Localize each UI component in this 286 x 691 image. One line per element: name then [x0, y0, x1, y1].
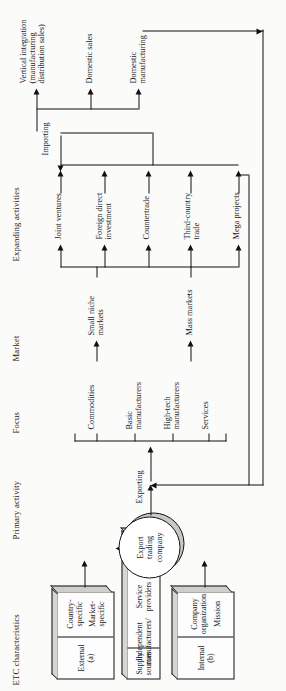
focus-bracket-cap-bottom: [225, 433, 226, 441]
connector-expanding-row: [148, 249, 149, 267]
focus-bracket-cap-top: [74, 433, 75, 441]
arrowhead-expanding-row: [235, 244, 241, 250]
connector-exporting-to-focus: [150, 451, 151, 481]
expanding-item-mega-projects: Mega projects: [231, 192, 240, 239]
expanding-item-foreign-direct-investment: Foreign direct investment: [94, 192, 112, 239]
feedback-loop-long-drop: [155, 484, 263, 485]
arrowhead-feedback-to-exporting: [150, 483, 156, 489]
supply-item-service: Service providers: [134, 581, 152, 610]
connector-collector-link: [152, 132, 153, 165]
arrowhead-focus-to-mass: [187, 340, 193, 346]
expanding-item-third-country-trade: Third-country trade: [182, 192, 200, 239]
connector-expanding-out: [60, 175, 61, 193]
column-heading-primary-activity: Primary activity: [10, 480, 20, 539]
export-trading-company-node: Export trading company: [118, 516, 180, 578]
arrowhead-expanding-out: [187, 170, 193, 176]
importing-collector-spine: [60, 164, 238, 165]
arrowhead-external-to-core: [81, 560, 87, 566]
focus-item-basic-manufacturers: Basic manufacturers: [124, 382, 142, 429]
arrowhead-focus-to-niche: [93, 340, 99, 346]
connector-expanding-row: [60, 249, 61, 267]
focus-tick: [208, 433, 209, 441]
external-factors-label: External: [76, 644, 85, 671]
column-heading-expanding: Expanding activities: [10, 187, 20, 261]
external-item-market: Market- specific: [87, 600, 105, 626]
connector-expanding-out: [148, 175, 149, 193]
connector-expanding-out: [190, 175, 191, 193]
expanding-item-joint-ventures: Joint ventures: [53, 193, 62, 239]
arrowhead-outcome-2: [87, 88, 93, 94]
arrowhead-feedback-long: [256, 29, 262, 35]
focus-tick: [172, 433, 173, 441]
connector-expanding-row: [190, 249, 191, 267]
importing-secondary-spine: [60, 132, 152, 133]
connector-core-to-exporting: [150, 489, 151, 515]
internal-item-company: Company organization: [189, 593, 207, 633]
arrowhead-expanding-out: [101, 170, 107, 176]
feedback-loop-expanding: [248, 175, 249, 485]
internal-factors-box: Internal (b) Company organization Missio…: [176, 591, 234, 679]
outcome-domestic-sales: Domestic sales: [84, 33, 93, 83]
connector-focus-to-mass: [190, 345, 191, 361]
internal-factors-label: Internal: [196, 645, 205, 670]
connector-expanding-out: [104, 175, 105, 193]
arrowhead-expanding-row: [187, 244, 193, 250]
focus-item-commodities: Commodities: [86, 384, 95, 429]
connector-importing-to-outcomes: [36, 109, 37, 131]
market-item-mass-markets: Mass markets: [184, 289, 193, 335]
connector-niche-to-expanding: [96, 266, 97, 277]
arrowhead-internal-to-core: [201, 560, 207, 566]
column-heading-focus: Focus: [10, 411, 20, 433]
column-heading-market: Market: [10, 335, 20, 361]
focus-tick: [96, 433, 97, 441]
arrowhead-expanding-row: [101, 244, 107, 250]
diagram-canvas: ETC characteristics Primary activity Foc…: [0, 0, 286, 691]
supply-item-independent: Independent manufacturers/: [134, 618, 152, 665]
arrowhead-outcome-3: [135, 88, 141, 94]
outcome-branch-2: [90, 93, 91, 109]
column-heading-etc: ETC characteristics: [10, 614, 20, 685]
external-factors-note: (a): [85, 653, 94, 662]
focus-item-services: Services: [200, 401, 209, 429]
focus-tick: [134, 433, 135, 441]
connector-to-importing: [60, 135, 61, 165]
outcome-branch-1: [36, 93, 37, 109]
connector-expanding-row: [104, 249, 105, 267]
feedback-loop-expanding-riser: [238, 174, 249, 175]
arrowhead-exporting-to-focus: [147, 446, 153, 452]
connector-mass-to-expanding: [190, 266, 191, 277]
internal-factors-note: (b): [205, 653, 214, 662]
external-item-country: Country- specific: [65, 599, 83, 628]
external-factors-box: External (a) Country- specific Market- s…: [56, 591, 114, 679]
connector-expanding-row: [238, 249, 239, 267]
outcome-vertical-integration: Vertical integration (manufacturing dist…: [18, 19, 46, 83]
box-top-face: [171, 588, 177, 679]
box-top-face: [51, 588, 57, 679]
arrowhead-expanding-row: [145, 244, 151, 250]
expanding-item-countertrade: Countertrade: [141, 196, 150, 239]
focus-item-high-tech-manufacturers: High-tech manufacturers: [162, 382, 180, 429]
arrowhead-to-importing: [57, 165, 63, 171]
figure-page: ETC characteristics Primary activity Foc…: [0, 0, 286, 691]
exporting-label: Exporting: [134, 470, 143, 503]
arrowhead-outcome-1: [33, 88, 39, 94]
outcome-bracket: [36, 108, 138, 109]
feedback-loop-long: [262, 29, 263, 485]
connector-expanding-out: [238, 175, 239, 193]
internal-item-mission: Mission: [212, 600, 221, 626]
outcome-domestic-manufacturing: Domestic manufacturing: [128, 35, 146, 83]
feedback-loop-long-riser: [142, 30, 263, 31]
connector-focus-to-niche: [96, 345, 97, 361]
arrowhead-expanding-out: [145, 170, 151, 176]
connector-external-to-core: [84, 565, 85, 587]
outcome-branch-3: [138, 93, 139, 109]
market-item-small-niche: Small niche markets: [86, 296, 104, 335]
importing-label: Importing: [40, 122, 49, 155]
connector-internal-to-core: [204, 565, 205, 587]
arrowhead-expanding-row: [57, 244, 63, 250]
